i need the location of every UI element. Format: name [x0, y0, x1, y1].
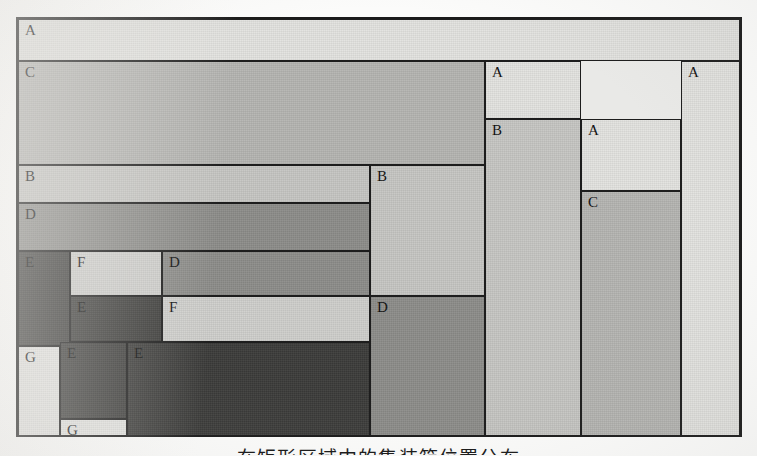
cell-label: G — [25, 349, 36, 366]
cell-label: C — [25, 64, 35, 81]
cell-label: F — [77, 254, 86, 271]
partition-cell-b: B — [370, 165, 485, 296]
partition-cell-a: A — [18, 19, 740, 61]
cell-label: B — [377, 168, 387, 185]
cell-label: E — [77, 299, 86, 316]
partition-cell-f: F — [162, 296, 370, 342]
partition-cell-e: E — [70, 296, 162, 342]
cell-label: D — [25, 206, 36, 223]
partition-cell-c: C — [18, 61, 485, 165]
cell-label: A — [25, 22, 36, 39]
partition-cell-b: B — [18, 165, 370, 203]
partition-cell-d: D — [18, 203, 370, 251]
cell-label: F — [169, 299, 178, 316]
cell-label: D — [169, 254, 180, 271]
cell-label: E — [25, 254, 34, 271]
partition-cell-g: G — [18, 346, 60, 437]
partition-cell-a: A — [485, 61, 581, 119]
partition-cell-e: E — [60, 342, 127, 419]
cell-label: B — [25, 168, 35, 185]
partition-cell-e: E — [18, 251, 70, 346]
partition-cell-g: G — [60, 419, 127, 437]
cell-label: A — [492, 64, 503, 81]
cell-label: A — [688, 64, 699, 81]
cell-label: C — [588, 194, 598, 211]
partition-cell-a: A — [581, 119, 681, 191]
cell-label: G — [67, 422, 78, 437]
partition-cell-d: D — [370, 296, 485, 437]
partition-cell-b: B — [485, 119, 581, 437]
cell-label: A — [588, 122, 599, 139]
figure-caption-text: 在矩形区域中的集装箱位置分布 — [0, 447, 757, 455]
figure-caption: 在矩形区域中的集装箱位置分布 — [0, 447, 757, 455]
cell-label: D — [377, 299, 388, 316]
cell-label: B — [492, 122, 502, 139]
rectangle-partition-diagram: ACBDEFDEFGEGEBDABACA — [16, 17, 742, 437]
figure-page: ACBDEFDEFGEGEBDABACA 在矩形区域中的集装箱位置分布 — [0, 0, 757, 456]
partition-cell-e: E — [127, 342, 370, 437]
cell-label: E — [67, 345, 76, 362]
partition-cell-c: C — [581, 191, 681, 437]
cell-label: E — [134, 345, 143, 362]
partition-cell-d: D — [162, 251, 370, 296]
partition-cell-a: A — [681, 61, 740, 437]
partition-cell-f: F — [70, 251, 162, 296]
